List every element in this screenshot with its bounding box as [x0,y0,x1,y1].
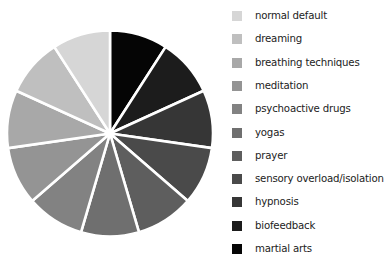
legend-swatch [232,104,242,114]
legend-label: dreaming [255,32,302,46]
legend-swatch [232,11,242,21]
legend-swatch [232,151,242,161]
legend-label: meditation [255,79,308,93]
legend-label: psychoactive drugs [255,102,351,116]
legend-label: biofeedback [255,219,315,233]
legend-label: hypnosis [255,195,299,209]
legend-swatch [232,58,242,68]
legend-swatch [232,174,242,184]
legend-label: yogas [255,126,284,140]
legend-swatch [232,197,242,207]
legend-label: sensory overload/isolation [255,172,384,186]
legend-swatch [232,81,242,91]
legend-swatch [232,221,242,231]
legend-label: prayer [255,149,287,163]
legend-swatch [232,244,242,254]
legend-label: breathing techniques [255,56,360,70]
pie-chart [0,0,230,259]
legend-label: normal default [255,9,327,23]
legend-label: martial arts [255,242,312,256]
legend-swatch [232,34,242,44]
legend-swatch [232,128,242,138]
